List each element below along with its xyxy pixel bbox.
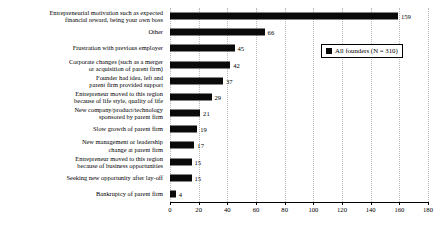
category-label: Corporate changes (such as a merger or a… [0, 57, 163, 72]
category-label: Founder had idea, left and parent firm p… [0, 73, 163, 88]
bar-value-label: 4 [179, 190, 182, 197]
gridline [199, 8, 200, 202]
bar [170, 61, 230, 68]
bar [170, 158, 192, 165]
bar-value-label: 37 [226, 77, 233, 84]
x-tick-label: 140 [366, 206, 376, 214]
category-label: Entrepreneur moved to this region becaus… [0, 154, 163, 169]
x-tick-label: 40 [224, 206, 231, 214]
gridline [227, 8, 228, 202]
category-label: Entrepreneurial motivation such as expec… [0, 9, 163, 24]
plot-area: 159664542372921191715154 [170, 8, 428, 202]
gridline [313, 8, 314, 202]
x-tick [199, 202, 200, 205]
x-tick [342, 202, 343, 205]
gridline [256, 8, 257, 202]
bar [170, 93, 212, 100]
gridline [428, 8, 429, 202]
category-label: Other [0, 29, 163, 36]
bar-value-label: 45 [238, 45, 245, 52]
bar [170, 110, 200, 117]
bar-value-label: 66 [268, 29, 275, 36]
x-tick-label: 20 [195, 206, 202, 214]
x-tick [170, 202, 171, 205]
x-tick [313, 202, 314, 205]
category-label: Bankruptcy of parent firm [0, 190, 163, 197]
bar [170, 77, 223, 84]
x-tick [227, 202, 228, 205]
x-tick [256, 202, 257, 205]
bar-value-label: 159 [401, 13, 411, 20]
bar-chart: Entrepreneurial motivation such as expec… [0, 0, 440, 234]
legend: All founders (N = 310) [321, 44, 403, 58]
x-tick-label: 80 [281, 206, 288, 214]
x-tick [428, 202, 429, 205]
x-tick-label: 120 [337, 206, 347, 214]
gridline [170, 8, 171, 202]
bar-value-label: 19 [200, 126, 207, 133]
gridline [371, 8, 372, 202]
bar-value-label: 15 [195, 158, 202, 165]
x-tick-label: 100 [308, 206, 318, 214]
x-tick-label: 60 [253, 206, 260, 214]
category-axis-labels: Entrepreneurial motivation such as expec… [0, 8, 166, 202]
bar-value-label: 21 [203, 110, 210, 117]
bar-value-label: 15 [195, 174, 202, 181]
bar [170, 142, 194, 149]
bar [170, 126, 197, 133]
bar [170, 174, 192, 181]
category-label: New company/product/technology sponsored… [0, 106, 163, 121]
category-label: Slow growth of parent firm [0, 126, 163, 133]
bar [170, 29, 265, 36]
x-tick [371, 202, 372, 205]
legend-swatch-icon [326, 48, 332, 54]
x-tick [285, 202, 286, 205]
x-tick-label: 0 [168, 206, 171, 214]
x-axis-line [170, 202, 428, 203]
x-tick [399, 202, 400, 205]
category-label: Seeking new opportunity after lay-off [0, 174, 163, 181]
bar [170, 190, 176, 197]
gridline [399, 8, 400, 202]
bar-value-label: 17 [197, 142, 204, 149]
bar-value-label: 42 [233, 61, 240, 68]
gridline [285, 8, 286, 202]
x-tick-label: 160 [394, 206, 404, 214]
bar-value-label: 29 [215, 93, 222, 100]
gridline [342, 8, 343, 202]
bar [170, 45, 235, 52]
bar [170, 13, 398, 20]
category-label: Frustration with previous employer [0, 45, 163, 52]
legend-entry-label: All founders (N = 310) [335, 47, 398, 55]
category-label: New management or leadership change at p… [0, 138, 163, 153]
x-tick-label: 180 [423, 206, 433, 214]
category-label: Entrepreneur moved to this region becaus… [0, 90, 163, 105]
